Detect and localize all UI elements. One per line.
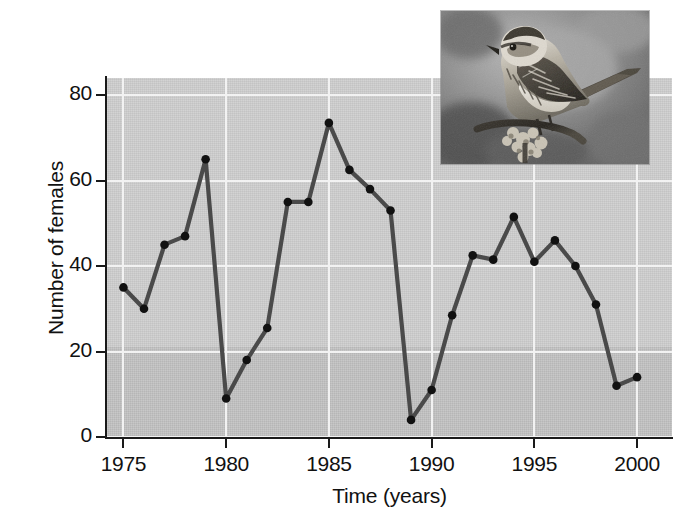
data-point-1993: 1993: 41.5 [489,255,498,264]
data-point-1991: 1991: 28.5 [448,311,457,320]
data-point-1977: 1977: 45 [160,240,169,249]
data-point-1995: 1995: 41 [530,257,539,266]
data-point-2000: 2000: 14 [633,373,642,382]
data-point-1989: 1989: 4 [407,416,416,425]
data-point-1982: 1982: 25.5 [263,324,272,333]
data-point-1986: 1986: 62.5 [345,166,354,175]
x-tick-mark-2000 [636,439,638,448]
x-tick-label-1985: 1985 [284,452,374,476]
data-point-1981: 1981: 18 [242,356,251,365]
x-tick-label-1980: 1980 [181,452,271,476]
data-point-1996: 1996: 46 [551,236,560,245]
x-tick-mark-1995 [533,439,535,448]
y-tick-label-0: 0 [0,423,92,447]
data-point-1984: 1984: 55 [304,198,313,207]
series-polyline-number-of-females [123,123,637,420]
data-point-1994: 1994: 51.5 [510,213,519,222]
data-point-1975: 1975: 35 [119,283,128,292]
data-point-1978: 1978: 47 [181,232,190,241]
y-tick-mark-20 [96,351,105,353]
data-point-1976: 1976: 30 [140,304,149,313]
x-tick-label-1990: 1990 [387,452,477,476]
y-tick-mark-80 [96,94,105,96]
data-point-1997: 1997: 40 [571,262,580,271]
y-axis-line [105,76,107,439]
sparrow-photo-graphic [441,11,649,164]
x-tick-label-1995: 1995 [489,452,579,476]
x-tick-label-1975: 1975 [78,452,168,476]
data-point-1990: 1990: 11 [427,386,436,395]
x-tick-mark-1975 [122,439,124,448]
y-tick-mark-60 [96,180,105,182]
data-point-1980: 1980: 9 [222,394,231,403]
x-tick-mark-1985 [328,439,330,448]
x-tick-mark-1990 [431,439,433,448]
data-point-1988: 1988: 53 [386,206,395,215]
data-point-1987: 1987: 58 [366,185,375,194]
y-tick-mark-40 [96,265,105,267]
data-point-1985: 1985: 73.5 [325,119,334,128]
x-tick-mark-1980 [225,439,227,448]
inset-photo-song-sparrow [441,11,649,164]
y-axis-title: Number of females [44,98,68,398]
data-point-1992: 1992: 42.5 [468,251,477,260]
x-tick-label-2000: 2000 [592,452,682,476]
x-axis-line [105,437,673,439]
data-point-1999: 1999: 12 [612,381,621,390]
data-point-1979: 1979: 65 [201,155,210,164]
data-point-1998: 1998: 31 [592,300,601,309]
y-tick-mark-0 [96,436,105,438]
data-point-1983: 1983: 55 [284,198,293,207]
figure-container: 1975: 351976: 301977: 451978: 471979: 65… [0,0,699,527]
x-axis-title: Time (years) [107,484,672,508]
